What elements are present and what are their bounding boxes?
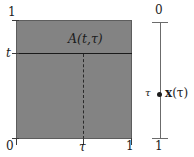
y-axis-label-bottom: 0 [6, 140, 14, 152]
tick-y-top [12, 20, 19, 21]
interval-axis-panel: 0 1 τ x(τ) [140, 0, 194, 157]
x-argument: (τ) [172, 86, 188, 100]
axis-label-tau: τ [145, 88, 151, 98]
tick-x-left [16, 138, 17, 145]
unit-square-panel: A(t,τ) 1 t 0 τ 1 [0, 0, 140, 157]
y-axis-label-t: t [6, 47, 11, 59]
dashed-line-at-tau [83, 54, 84, 139]
axis-label-0: 0 [155, 4, 163, 16]
tick-y-t [12, 53, 19, 54]
axis-label-x-of-tau: x(τ) [165, 87, 188, 99]
figure-container: A(t,τ) 1 t 0 τ 1 0 1 τ x(τ) [0, 0, 194, 157]
x-axis-label-tau: τ [79, 141, 86, 153]
y-axis-label-top: 1 [8, 6, 16, 18]
horizontal-line-at-t [16, 53, 132, 54]
axis-vertical-line [160, 22, 161, 138]
region-label-A: A(t,τ) [68, 33, 103, 46]
axis-cap-top [152, 22, 168, 23]
axis-point-marker [157, 92, 162, 97]
x-axis-label-right: 1 [126, 140, 134, 152]
axis-label-1: 1 [155, 140, 163, 152]
